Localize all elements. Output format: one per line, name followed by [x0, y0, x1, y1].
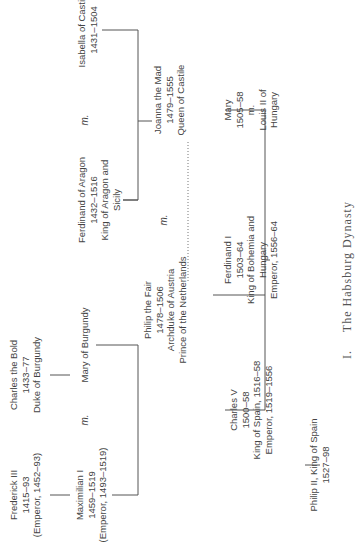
person-note: Duke of Burgundy [31, 337, 43, 413]
person-name: Mary of Burgundy [79, 308, 91, 383]
person-note: (Emperor, 1493–1519) [97, 447, 109, 542]
person-charles-the-bold: Charles the Bold 1433–77 Duke of Burgund… [8, 337, 43, 413]
person-philip-ii: Philip II, King of Spain 1527–98 [308, 419, 331, 512]
marriage-label: m. [158, 214, 169, 225]
person-spouse: Hungary [268, 89, 280, 130]
person-dates: 1479–1555 [164, 65, 176, 136]
person-note: Hungary [257, 216, 269, 304]
person-dates: 1527–98 [320, 419, 332, 512]
person-marriage: m. [245, 89, 257, 130]
person-dates: 1433–77 [20, 337, 32, 413]
caption-number: I. [340, 350, 354, 359]
person-note: (Emperor, 1452–93) [31, 453, 43, 538]
marriage-label: m. [79, 114, 90, 125]
person-note: King of Bohemia and [245, 216, 257, 304]
person-note: Queen of Castile [175, 65, 187, 136]
person-note: Emperor, 1519–1556 [263, 361, 275, 460]
person-note: Prince of the Netherlands [177, 256, 189, 363]
person-dates: 1459–1519 [86, 447, 98, 542]
person-name: Philip the Fair [142, 256, 154, 363]
person-note: Emperor, 1556–64 [268, 216, 280, 304]
person-name: Ferdinand of Aragon [76, 157, 88, 243]
diagram-caption: I. The Habsburg Dynasty [340, 201, 355, 359]
person-dates: 1503–64 [234, 216, 246, 304]
marriage-label: m. [79, 414, 90, 425]
person-note: King of Spain, 1516–58 [251, 361, 263, 460]
person-dates: 1505–58 [234, 89, 246, 130]
caption-title: The Habsburg Dynasty [340, 201, 354, 332]
person-note: Sicily [111, 157, 123, 243]
person-name: Maximilian I [74, 447, 86, 542]
person-name: Charles V [228, 361, 240, 460]
person-note: King of Aragon and [99, 157, 111, 243]
person-note: Archduke of Austria [165, 256, 177, 363]
person-name: Isabella of Castile [76, 0, 88, 67]
person-mary-of-hungary: Mary 1505–58 m. Louis II of Hungary [222, 89, 280, 130]
person-name: Charles the Bold [8, 337, 20, 413]
person-name: Ferdinand I [222, 216, 234, 304]
person-maximilian-i: Maximilian I 1459–1519 (Emperor, 1493–15… [74, 447, 109, 542]
person-name: Mary [222, 89, 234, 130]
person-name: Joanna the Mad [152, 65, 164, 136]
person-mary-of-burgundy: Mary of Burgundy [79, 308, 91, 383]
person-dates: 1432–1516 [88, 157, 100, 243]
person-name: Philip II, King of Spain [308, 419, 320, 512]
person-ferdinand-of-aragon: Ferdinand of Aragon 1432–1516 King of Ar… [76, 157, 122, 243]
person-spouse: Louis II of [257, 89, 269, 130]
person-ferdinand-i: Ferdinand I 1503–64 King of Bohemia and … [222, 216, 280, 304]
person-charles-v: Charles V 1500–58 King of Spain, 1516–58… [228, 361, 274, 460]
person-name: Frederick III [8, 453, 20, 538]
person-joanna-the-mad: Joanna the Mad 1479–1555 Queen of Castil… [152, 65, 187, 136]
person-philip-the-fair: Philip the Fair 1478–1506 Archduke of Au… [142, 256, 188, 363]
person-dates: 1500–58 [240, 361, 252, 460]
person-frederick-iii: Frederick III 1415–93 (Emperor, 1452–93) [8, 453, 43, 538]
person-isabella-of-castile: Isabella of Castile 1431–1504 [76, 0, 99, 67]
person-dates: 1431–1504 [88, 0, 100, 67]
person-dates: 1478–1506 [154, 256, 166, 363]
person-dates: 1415–93 [20, 453, 32, 538]
